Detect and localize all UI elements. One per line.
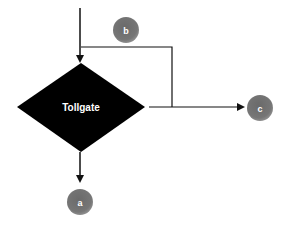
node-b-label: b	[123, 26, 129, 36]
decision-tollgate[interactable]: Tollgate	[17, 63, 145, 152]
arrowhead-icon	[76, 55, 84, 63]
node-a[interactable]: a	[67, 189, 93, 215]
node-c-label: c	[257, 104, 262, 114]
arrowhead-icon	[76, 175, 84, 183]
flow-diagram: Tollgate b c a	[0, 0, 287, 228]
node-c[interactable]: c	[247, 95, 273, 121]
decision-label: Tollgate	[62, 102, 100, 113]
arrowhead-icon	[237, 103, 245, 111]
node-b[interactable]: b	[113, 17, 139, 43]
